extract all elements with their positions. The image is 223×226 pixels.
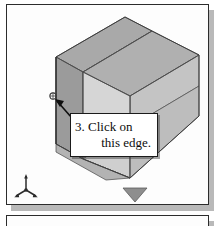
next-figure-frame (6, 215, 209, 226)
cad-viewport-frame[interactable] (6, 4, 209, 205)
callout-box[interactable]: 3. Click on this edge. (70, 113, 158, 157)
callout-line-1: 3. Click on (75, 119, 152, 135)
figure-root: 3. Click on this edge. (0, 0, 223, 226)
callout-line-2: this edge. (75, 135, 152, 151)
